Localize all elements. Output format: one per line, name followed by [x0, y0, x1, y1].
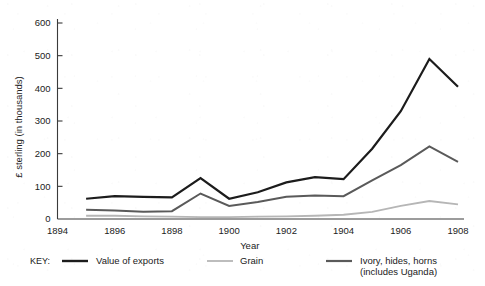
x-tick-label-1898: 1898	[161, 225, 182, 236]
y-tick-label-500: 500	[35, 50, 51, 61]
legend-label-0: Value of exports	[96, 255, 164, 266]
legend-prefix: KEY:	[30, 256, 50, 266]
series-line-ivory-hides-horns-includes-uganda	[86, 146, 458, 211]
y-tick-label-200: 200	[35, 148, 51, 159]
y-tick-label-300: 300	[35, 115, 51, 126]
chart-legend: KEY:Value of exportsGrainIvory, hides, h…	[30, 255, 437, 277]
series-line-grain	[86, 201, 458, 217]
line-chart: 0100200300400500600 18941896189819001902…	[0, 0, 485, 286]
legend-label-2-line2: (includes Uganda)	[360, 266, 437, 277]
x-tick-label-1904: 1904	[333, 225, 354, 236]
chart-container: 0100200300400500600 18941896189819001902…	[0, 0, 485, 286]
x-tick-label-1902: 1902	[276, 225, 297, 236]
series-group	[86, 59, 458, 217]
x-tick-label-1900: 1900	[219, 225, 240, 236]
y-tick-label-100: 100	[35, 181, 51, 192]
x-tick-label-1894: 1894	[47, 225, 68, 236]
y-tick-label-400: 400	[35, 83, 51, 94]
y-axis-title: £ sterling (in thousands)	[13, 76, 24, 177]
y-axis-tick-group: 0100200300400500600	[35, 17, 63, 224]
series-line-value-of-exports	[86, 59, 458, 199]
legend-label-2: Ivory, hides, horns	[360, 255, 437, 266]
x-tick-label-1896: 1896	[104, 225, 125, 236]
legend-label-1: Grain	[240, 255, 263, 266]
y-tick-label-0: 0	[45, 213, 50, 224]
x-tick-label-1908: 1908	[447, 225, 468, 236]
x-axis-tick-group: 18941896189819001902190419061908	[47, 225, 469, 236]
x-axis-title: Year	[240, 240, 259, 251]
y-tick-label-600: 600	[35, 17, 51, 28]
x-tick-label-1906: 1906	[390, 225, 411, 236]
